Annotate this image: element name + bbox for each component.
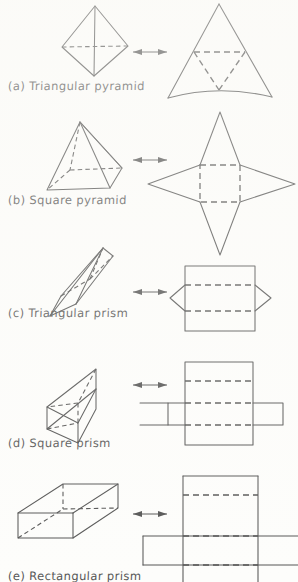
caption-c: (c)Triangular prism (8, 306, 129, 320)
caption-c-tag: (c) (8, 306, 25, 320)
arrow-c (133, 289, 167, 295)
caption-e-tag: (e) (8, 569, 26, 582)
figure-page: .s { fill:none; stroke:#2b2b2b; stroke-w… (0, 0, 298, 582)
net-square-prism (140, 362, 283, 445)
solid-square-prism (47, 369, 96, 443)
arrow-b (133, 157, 167, 163)
arrow-d (133, 382, 167, 388)
net-triangular-pyramid (168, 4, 272, 98)
caption-e: (e)Rectangular prism (8, 569, 142, 582)
caption-e-name: Rectangular prism (29, 569, 142, 582)
caption-a-name: Triangular pyramid (29, 79, 145, 93)
caption-b-tag: (b) (8, 193, 26, 207)
caption-d-name: Square prism (29, 436, 111, 450)
arrow-a (133, 49, 167, 55)
caption-a: (a)Triangular pyramid (8, 79, 145, 93)
arrow-e (133, 511, 167, 517)
solid-square-pyramid (47, 122, 122, 190)
caption-b-name: Square pyramid (29, 193, 127, 207)
net-rectangular-prism (143, 476, 298, 582)
caption-d-tag: (d) (8, 436, 26, 450)
solid-rectangular-prism (18, 484, 118, 538)
net-triangular-prism (170, 266, 271, 331)
solid-triangular-pyramid (62, 6, 128, 76)
caption-d: (d)Square prism (8, 436, 111, 450)
net-square-pyramid (148, 112, 295, 255)
caption-b: (b)Square pyramid (8, 193, 127, 207)
caption-c-name: Triangular prism (28, 306, 128, 320)
caption-a-tag: (a) (8, 79, 26, 93)
